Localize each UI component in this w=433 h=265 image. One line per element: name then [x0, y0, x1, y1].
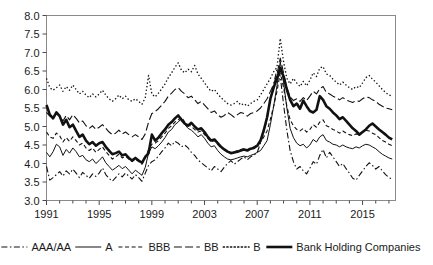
legend-item-aaa-aa: AAA/AA [1, 241, 71, 253]
legend-label-b: B [253, 241, 260, 253]
legend-label-bb: BB [204, 241, 219, 253]
y-tick-label: 8.0 [24, 10, 39, 22]
y-tick-label: 5.0 [24, 121, 39, 133]
line-chart: 3.03.54.04.55.05.56.06.57.07.58.0 199119… [0, 0, 433, 265]
y-tick-label: 4.5 [24, 139, 39, 151]
legend-item-a: A [75, 241, 113, 253]
x-tick-label: 1999 [140, 208, 164, 220]
y-axis-labels: 3.03.54.04.55.05.56.06.57.07.58.0 [24, 10, 39, 207]
x-tick-label: 2007 [245, 208, 269, 220]
y-tick-label: 7.0 [24, 47, 39, 59]
y-tick-label: 6.5 [24, 65, 39, 77]
y-tick-label: 5.5 [24, 102, 39, 114]
legend-label-bbb: BBB [148, 241, 170, 253]
y-axis-ticks [43, 16, 47, 201]
x-tick-label: 2011 [298, 208, 322, 220]
series-line-aaa-aa [47, 69, 393, 181]
legend-item-bb: BB [174, 241, 219, 253]
y-tick-label: 4.0 [24, 158, 39, 170]
y-tick-label: 3.0 [24, 195, 39, 207]
legend-item-b: B [223, 241, 260, 253]
legend-label-a: A [105, 241, 113, 253]
legend-item-bank-holding-companies: Bank Holding Companies [266, 241, 421, 253]
chart-legend: AAA/AAABBBBBBBank Holding Companies [1, 241, 421, 253]
series-line-b [47, 38, 393, 106]
legend-label-aaa-aa: AAA/AA [31, 241, 71, 253]
x-axis-labels: 1991199519992003200720112015 [34, 208, 375, 220]
x-tick-label: 2015 [350, 208, 374, 220]
y-tick-label: 6.0 [24, 84, 39, 96]
y-tick-label: 3.5 [24, 176, 39, 188]
series-lines [47, 38, 393, 181]
legend-label-bank-holding-companies: Bank Holding Companies [296, 241, 421, 253]
x-tick-label: 1991 [34, 208, 58, 220]
x-tick-label: 2003 [192, 208, 216, 220]
chart-container: 3.03.54.04.55.05.56.06.57.07.58.0 199119… [0, 0, 433, 265]
series-line-bb [47, 58, 393, 139]
legend-item-bbb: BBB [118, 241, 170, 253]
x-tick-label: 1995 [87, 208, 111, 220]
y-tick-label: 7.5 [24, 28, 39, 40]
x-axis-ticks [47, 201, 389, 206]
